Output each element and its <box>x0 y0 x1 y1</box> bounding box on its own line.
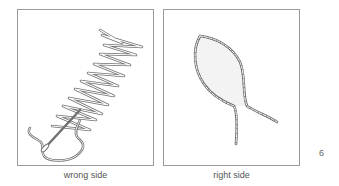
herringbone-stitch-illustration <box>18 10 155 167</box>
caption-right-side: right side <box>163 170 300 180</box>
leaf-stem-stitch-illustration <box>164 10 301 167</box>
panel-right-side <box>163 9 300 166</box>
panel-wrong-side <box>17 9 154 166</box>
page-number: 6 <box>319 148 324 158</box>
caption-wrong-side: wrong side <box>17 170 154 180</box>
